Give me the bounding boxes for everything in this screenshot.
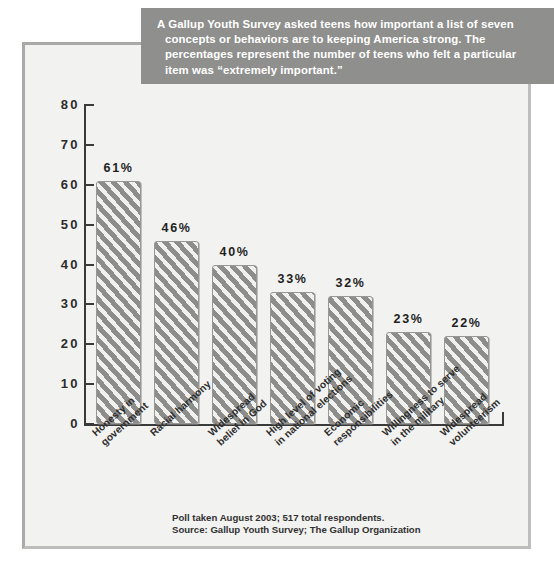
chart-page: 01020304050607080 61%46%40%33%32%23%22% … [0, 0, 554, 569]
y-axis-tick-label: 50 [40, 217, 80, 232]
caption-text: A Gallup Youth Survey asked teens how im… [157, 17, 540, 78]
y-axis-tick-label: 40 [40, 257, 80, 272]
bar [96, 181, 141, 424]
footnote-line-2: Source: Gallup Youth Survey; The Gallup … [172, 524, 421, 536]
y-axis-tick [84, 144, 94, 146]
y-axis-tick-label: 10 [40, 376, 80, 391]
x-axis-end-cap [502, 412, 504, 426]
y-axis-tick-label: 70 [40, 137, 80, 152]
bar-value-label: 22% [436, 316, 497, 330]
y-axis-tick [84, 104, 94, 106]
y-axis-tick [84, 224, 94, 226]
y-axis-tick-label: 60 [40, 177, 80, 192]
y-axis-tick [84, 264, 94, 266]
y-axis-tick [84, 343, 94, 345]
y-axis-tick-label: 30 [40, 296, 80, 311]
bar-value-label: 23% [378, 312, 439, 326]
y-axis-tick [84, 423, 94, 425]
bar-value-label: 40% [204, 245, 265, 259]
bar-value-label: 32% [320, 276, 381, 290]
plot-area: 01020304050607080 61%46%40%33%32%23%22% … [0, 0, 554, 569]
y-axis-tick-label: 20 [40, 336, 80, 351]
y-axis-tick [84, 303, 94, 305]
footnote-line-1: Poll taken August 2003; 517 total respon… [172, 512, 421, 524]
y-axis-tick [84, 184, 94, 186]
caption-banner: A Gallup Youth Survey asked teens how im… [141, 8, 554, 84]
y-axis-tick [84, 383, 94, 385]
bar-value-label: 33% [262, 272, 323, 286]
footnote: Poll taken August 2003; 517 total respon… [172, 512, 421, 536]
bar-value-label: 61% [88, 161, 149, 175]
y-axis-tick-label: 0 [40, 416, 80, 431]
y-axis-tick-label: 80 [40, 97, 80, 112]
bar-value-label: 46% [146, 221, 207, 235]
